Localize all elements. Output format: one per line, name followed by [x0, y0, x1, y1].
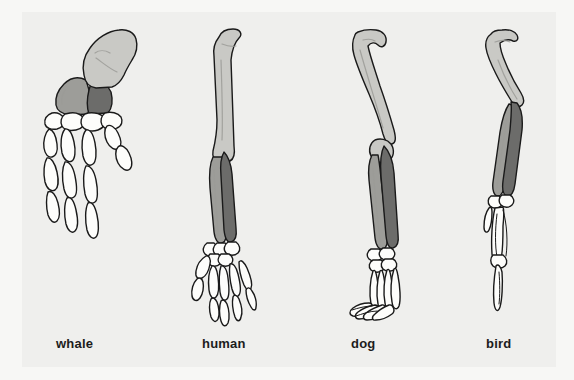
specimen-bird [484, 30, 524, 311]
human-digit-2 [209, 266, 219, 322]
human-digit-5 [239, 261, 256, 310]
whale-radius-bone [56, 78, 90, 115]
bird-phalanx-bone [494, 265, 503, 311]
dog-paw-bones [350, 303, 394, 320]
bird-carpal-bones [488, 195, 514, 208]
human-digit-3 [219, 266, 229, 326]
homologous-limbs-illustration [0, 0, 574, 380]
label-dog: dog [351, 336, 375, 351]
label-bird: bird [486, 336, 511, 351]
whale-humerus-bone [83, 30, 137, 88]
label-whale: whale [56, 336, 93, 351]
human-humerus-bone [213, 29, 241, 161]
specimen-whale [44, 30, 137, 238]
whale-digit-1 [44, 129, 60, 222]
human-digit-1 [192, 256, 211, 301]
bird-alula-bone [484, 207, 492, 232]
label-human: human [202, 336, 246, 351]
whale-digit-4 [105, 125, 132, 170]
whale-digit-2 [61, 129, 77, 232]
specimen-human [192, 29, 257, 326]
whale-digit-3 [82, 130, 98, 238]
specimen-dog [350, 30, 400, 321]
dog-humerus-bone [353, 30, 396, 145]
bird-humerus-bone [486, 30, 524, 107]
figure-page: whale human dog bird [0, 0, 574, 380]
dog-carpal-bones [367, 248, 396, 272]
